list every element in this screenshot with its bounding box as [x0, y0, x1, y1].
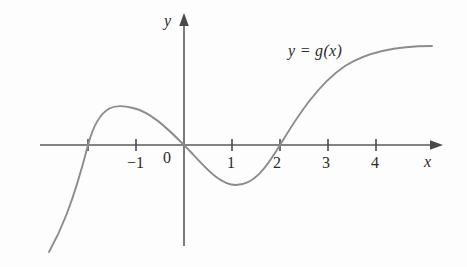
curve-equation-label: y = g(x)	[288, 43, 342, 59]
plot-canvas	[0, 0, 467, 267]
y-axis-label: y	[164, 13, 171, 29]
graph-figure: −1 0 1 2 3 4 x y y = g(x)	[0, 0, 467, 267]
tick-label-3: 3	[322, 155, 330, 171]
x-axis	[40, 140, 443, 150]
function-curve	[49, 46, 432, 252]
tick-label-2: 2	[273, 155, 281, 171]
x-axis-arrowhead	[430, 140, 443, 150]
tick-label-0: 0	[163, 150, 171, 166]
tick-label-4: 4	[371, 155, 379, 171]
x-axis-label: x	[424, 154, 431, 170]
y-axis	[179, 13, 189, 246]
y-axis-arrowhead	[179, 13, 189, 26]
tick-label-minus-1: −1	[127, 155, 144, 171]
tick-label-1: 1	[227, 155, 235, 171]
